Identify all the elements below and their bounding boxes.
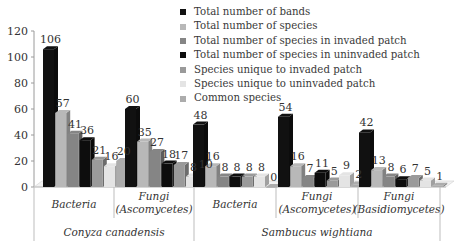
bar: [254, 174, 269, 187]
legend-swatch-icon: [180, 9, 186, 15]
value-label: 8: [387, 161, 394, 174]
legend-item: Species unique to uninvaded patch: [180, 77, 420, 91]
legend-item: Species unique to invaded patch: [180, 63, 420, 77]
y-tick-label: 40: [14, 129, 28, 142]
y-tick-label: 60: [14, 103, 28, 116]
x-category-label: (Ascomycetes): [278, 203, 355, 215]
value-label: 16: [206, 150, 220, 163]
value-label: 42: [360, 116, 374, 129]
legend-label: Total number of species in invaded patch: [194, 34, 407, 48]
legend-swatch-icon: [180, 81, 186, 87]
value-label: 11: [315, 157, 329, 170]
value-label: 2: [355, 168, 362, 181]
legend-label: Total number of bands: [194, 5, 310, 19]
x-category-label: Fungi: [138, 190, 170, 202]
x-axis: BacteriaFungi(Ascomycetes)BacteriaFungi(…: [34, 187, 445, 241]
value-label: 8: [190, 161, 197, 174]
value-label: 17: [174, 149, 188, 162]
x-category-label: Bacteria: [212, 198, 258, 210]
legend-swatch-icon: [180, 52, 186, 58]
legend-item: Total number of species in uninvaded pat…: [180, 48, 420, 62]
x-category-label: (Basidiomycetes): [353, 203, 444, 215]
legend-item: Total number of bands: [180, 5, 420, 19]
legend-item: Common species: [180, 91, 420, 105]
value-label: 6: [400, 163, 407, 176]
value-label: 8: [258, 161, 265, 174]
legend: Total number of bandsTotal number of spe…: [180, 5, 420, 106]
legend-item: Total number of species: [180, 19, 420, 33]
value-label: 16: [291, 150, 305, 163]
value-label: 7: [412, 162, 419, 175]
y-tick-label: 80: [14, 77, 28, 90]
y-tick-label: 100: [7, 51, 28, 64]
value-label: 36: [80, 124, 94, 137]
value-label: 5: [424, 165, 431, 178]
value-label: 20: [117, 145, 131, 158]
y-tick-label: 0: [21, 181, 28, 194]
legend-label: Common species: [194, 91, 281, 105]
legend-label: Species unique to uninvaded patch: [194, 77, 375, 91]
value-label: 106: [40, 33, 61, 46]
value-label: 60: [126, 93, 140, 106]
legend-label: Species unique to invaded patch: [194, 63, 362, 77]
value-label: 13: [372, 154, 386, 167]
legend-swatch-icon: [180, 24, 186, 30]
value-label: 7: [306, 162, 313, 175]
x-group-label: Conyza canadensis: [63, 226, 165, 238]
value-label: 48: [194, 109, 208, 122]
value-label: 8: [246, 161, 253, 174]
legend-swatch-icon: [180, 96, 186, 102]
value-label: 8: [221, 161, 228, 174]
legend-label: Total number of species in uninvaded pat…: [194, 48, 420, 62]
x-category-label: Fungi: [383, 190, 415, 202]
legend-swatch-icon: [180, 67, 186, 73]
x-group-label: Sambucus wightiana: [262, 226, 373, 238]
y-tick-label: 20: [14, 155, 28, 168]
x-category-label: Bacteria: [51, 198, 97, 210]
value-label: 57: [56, 97, 70, 110]
value-label: 1: [436, 170, 443, 183]
value-label: 8: [234, 161, 241, 174]
value-label: 0: [270, 171, 277, 184]
legend-item: Total number of species in invaded patch: [180, 34, 420, 48]
y-tick-label: 120: [7, 25, 28, 38]
value-label: 9: [343, 159, 350, 172]
value-label: 5: [331, 165, 338, 178]
legend-label: Total number of species: [194, 19, 317, 33]
x-category-label: Fungi: [301, 190, 333, 202]
legend-swatch-icon: [180, 38, 186, 44]
x-category-label: (Ascomycetes): [115, 203, 192, 215]
